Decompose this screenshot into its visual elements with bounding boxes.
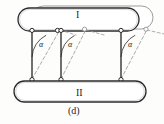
displacement-ray-2 <box>61 31 86 80</box>
figure-container: I II (d) α α α <box>0 0 164 124</box>
displacement-ray-1 <box>32 31 60 80</box>
upper-body-label: I <box>76 10 79 20</box>
displacement-ray-3 <box>121 31 147 80</box>
angle-label-alpha-2: α <box>68 40 72 49</box>
pivot-top-1 <box>30 28 34 32</box>
figure-caption: (d) <box>68 106 80 116</box>
ghost-tail-3 <box>147 30 164 34</box>
angle-label-alpha-3: α <box>128 40 132 49</box>
pivot-top-2 <box>59 28 63 32</box>
mechanism-diagram <box>0 0 164 124</box>
displacement-rays <box>32 31 147 80</box>
angle-arcs <box>32 35 135 57</box>
angle-label-alpha-1: α <box>39 40 43 49</box>
pivot-top-ghost-3 <box>144 27 148 31</box>
pivot-top-ghost-2 <box>82 27 86 31</box>
pivot-top-3 <box>119 28 123 32</box>
lower-body-label: II <box>76 88 83 98</box>
connecting-links <box>32 32 121 78</box>
